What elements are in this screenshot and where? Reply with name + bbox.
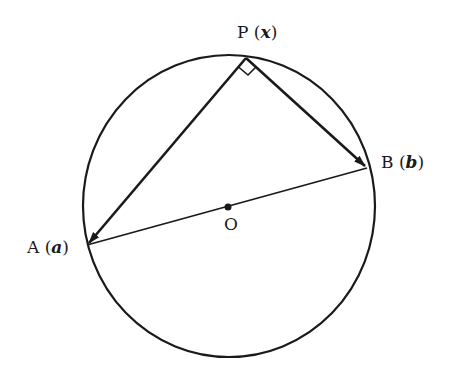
vector-pa xyxy=(89,58,246,243)
label-p: P (x) xyxy=(237,22,277,42)
label-a-vector: a xyxy=(51,237,62,257)
label-b-letter: B xyxy=(381,152,394,172)
label-p-vector: x xyxy=(261,22,271,42)
label-p-close: ) xyxy=(271,22,278,42)
label-b-close: ) xyxy=(417,152,424,172)
right-angle-marker xyxy=(239,67,257,75)
vector-pb xyxy=(246,58,365,166)
label-o: O xyxy=(224,214,238,234)
label-p-letter: P xyxy=(237,22,248,42)
label-b-open: ( xyxy=(399,152,406,172)
label-b-vector: b xyxy=(406,152,418,172)
center-point-o xyxy=(225,204,232,211)
label-a-close: ) xyxy=(62,237,69,257)
circle-diagram xyxy=(0,0,454,378)
label-p-open: ( xyxy=(254,22,261,42)
label-o-letter: O xyxy=(224,214,238,234)
label-b: B (b) xyxy=(381,152,424,172)
label-a: A (a) xyxy=(27,237,69,257)
label-a-letter: A xyxy=(27,237,39,257)
